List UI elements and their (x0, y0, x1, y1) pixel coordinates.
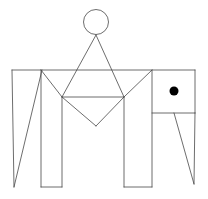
head-circle (84, 10, 109, 35)
circle-triangle-right-edge (96, 35, 124, 97)
left-leg-top-diagonal (41, 70, 62, 97)
trunk-right-edge (194, 113, 195, 184)
left-triangle-hypotenuse (14, 70, 42, 187)
trunk-diagonal (174, 113, 194, 184)
eye-dot (170, 87, 179, 96)
left-triangle-left-edge (12, 70, 14, 187)
right-leg-top-diagonal (124, 70, 152, 97)
elephant-line-drawing (0, 0, 208, 199)
diamond-right-edge (96, 97, 124, 126)
elephant-figure-canvas (0, 0, 208, 199)
circle-triangle-left-edge (62, 35, 96, 97)
diamond-left-edge (62, 97, 96, 126)
